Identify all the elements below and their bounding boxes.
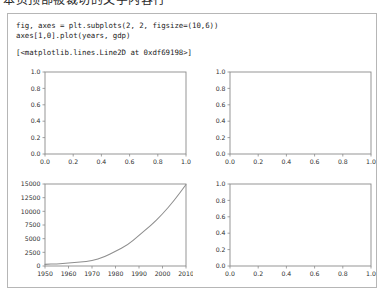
axes-spine	[45, 184, 186, 266]
code-line-1: fig, axes = plt.subplots(2, 2, figsize=(…	[16, 21, 368, 31]
y-tick-label: 0	[37, 262, 41, 269]
y-tick-label: 0.4	[31, 117, 41, 124]
x-tick-label: 0.8	[338, 270, 348, 277]
y-tick-label: 1.0	[216, 180, 226, 187]
x-tick-label: 1.0	[181, 158, 191, 165]
axes-spine	[45, 72, 186, 154]
y-tick-label: 0.2	[216, 246, 226, 253]
y-tick-label: 7500	[25, 221, 41, 228]
y-tick-label: 0.4	[216, 117, 226, 124]
x-tick-label: 1.0	[366, 270, 376, 277]
x-tick-label: 0.4	[281, 270, 291, 277]
x-tick-label: 1980	[108, 270, 124, 277]
y-tick-label: 0.0	[216, 262, 226, 269]
y-tick-label: 0.2	[31, 134, 41, 141]
subplot-top-left: 0.00.20.40.60.81.00.00.20.40.60.81.0	[8, 64, 193, 176]
notebook-output-frame: fig, axes = plt.subplots(2, 2, figsize=(…	[7, 13, 377, 288]
x-tick-label: 0.0	[225, 270, 235, 277]
code-cell[interactable]: fig, axes = plt.subplots(2, 2, figsize=(…	[16, 21, 368, 58]
x-tick-label: 0.8	[338, 158, 348, 165]
y-tick-label: 0.8	[216, 85, 226, 92]
subplot-bottom-right-canvas: 0.00.20.40.60.81.00.00.20.40.60.81.0	[193, 176, 378, 288]
y-tick-label: 0.0	[31, 150, 41, 157]
matplotlib-figure: 0.00.20.40.60.81.00.00.20.40.60.81.0 0.0…	[8, 64, 378, 288]
y-tick-label: 5000	[25, 235, 41, 242]
y-tick-label: 0.8	[216, 197, 226, 204]
subplot-bottom-left-canvas: 0250050007500100001250015000195019601970…	[8, 176, 193, 288]
x-tick-label: 0.2	[253, 158, 263, 165]
y-tick-label: 1.0	[216, 68, 226, 75]
y-tick-label: 0.8	[31, 85, 41, 92]
x-tick-label: 1950	[37, 270, 53, 277]
x-tick-label: 1.0	[366, 158, 376, 165]
subplot-top-right-canvas: 0.00.20.40.60.81.00.00.20.40.60.81.0	[193, 64, 378, 176]
subplot-bottom-right: 0.00.20.40.60.81.00.00.20.40.60.81.0	[193, 176, 378, 288]
x-tick-label: 0.2	[68, 158, 78, 165]
subplot-top-left-canvas: 0.00.20.40.60.81.00.00.20.40.60.81.0	[8, 64, 193, 176]
y-tick-label: 0.6	[31, 101, 41, 108]
y-tick-label: 12500	[21, 194, 41, 201]
y-tick-label: 0.6	[216, 213, 226, 220]
y-tick-label: 0.2	[216, 134, 226, 141]
x-tick-label: 2000	[155, 270, 171, 277]
x-tick-label: 1960	[61, 270, 77, 277]
y-tick-label: 0.6	[216, 101, 226, 108]
subplot-bottom-left: 0250050007500100001250015000195019601970…	[8, 176, 193, 288]
y-tick-label: 1.0	[31, 68, 41, 75]
x-tick-label: 0.8	[153, 158, 163, 165]
code-output-line: [<matplotlib.lines.Line2D at 0xdf69198>]	[16, 48, 368, 58]
y-tick-label: 2500	[25, 249, 41, 256]
x-tick-label: 0.6	[310, 158, 320, 165]
cut-off-text-strip: 本页顶部被裁切的文字内容行	[0, 0, 388, 9]
y-tick-label: 15000	[21, 180, 41, 187]
x-tick-label: 0.0	[40, 158, 50, 165]
y-tick-label: 0.0	[216, 150, 226, 157]
x-tick-label: 0.4	[96, 158, 106, 165]
axes-spine	[230, 184, 371, 266]
x-tick-label: 0.6	[310, 270, 320, 277]
code-line-2: axes[1,0].plot(years, gdp)	[16, 31, 368, 41]
x-tick-label: 0.2	[253, 270, 263, 277]
gdp-data-line	[45, 185, 186, 265]
x-tick-label: 0.0	[225, 158, 235, 165]
x-tick-label: 1970	[84, 270, 100, 277]
y-tick-label: 10000	[21, 208, 41, 215]
axes-spine	[230, 72, 371, 154]
x-tick-label: 2010	[178, 270, 193, 277]
y-tick-label: 0.4	[216, 229, 226, 236]
x-tick-label: 1990	[131, 270, 147, 277]
cut-off-text: 本页顶部被裁切的文字内容行	[3, 0, 166, 7]
x-tick-label: 0.4	[281, 158, 291, 165]
subplot-top-right: 0.00.20.40.60.81.00.00.20.40.60.81.0	[193, 64, 378, 176]
x-tick-label: 0.6	[125, 158, 135, 165]
